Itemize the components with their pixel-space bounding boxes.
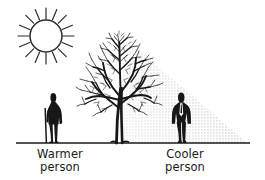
caption-warmer-line2: person [10,161,110,174]
caption-cooler-person: Cooler person [135,148,235,174]
caption-cooler-line2: person [135,161,235,174]
caption-warmer-person: Warmer person [10,148,110,174]
person-warmer-figure [44,93,62,143]
tree-shade-illustration: Warmer person Cooler person [0,0,265,180]
caption-warmer-line1: Warmer [37,147,83,161]
sun-icon [18,8,74,64]
caption-cooler-line1: Cooler [166,147,204,161]
